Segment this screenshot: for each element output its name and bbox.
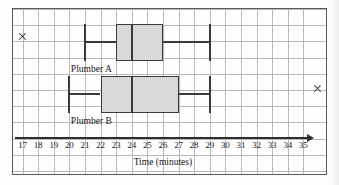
x-axis-tick-31: 31	[237, 140, 246, 150]
whisker-lower-A	[85, 41, 116, 43]
median-line-B	[131, 76, 133, 113]
graph-paper-frame: Plumber A Plumber B 17181920212223242526…	[12, 8, 327, 175]
x-axis-tick-30: 30	[221, 140, 230, 150]
x-mark-left-icon	[18, 32, 27, 41]
x-axis-tick-33: 33	[268, 140, 277, 150]
quartile-box-B	[101, 76, 179, 113]
x-axis-tick-18: 18	[34, 140, 43, 150]
x-axis-tick-26: 26	[159, 140, 168, 150]
whisker-cap-max-A	[209, 24, 211, 61]
x-axis-tick-20: 20	[65, 140, 74, 150]
whisker-upper-B	[179, 93, 210, 95]
gridline-h	[13, 58, 326, 59]
whisker-upper-A	[163, 41, 210, 43]
quartile-box-A	[116, 24, 163, 61]
axis-arrow-right-icon	[307, 134, 314, 142]
x-axis-tick-29: 29	[205, 140, 214, 150]
x-axis-tick-19: 19	[49, 140, 58, 150]
gridline-h	[13, 171, 326, 172]
series-label-plumber-b: Plumber B	[71, 116, 112, 126]
x-axis-tick-24: 24	[127, 140, 136, 150]
x-axis-tick-27: 27	[174, 140, 183, 150]
gridline-h	[13, 122, 326, 123]
x-axis-tick-22: 22	[96, 140, 105, 150]
x-axis-tick-32: 32	[252, 140, 261, 150]
gridline-h	[13, 155, 326, 156]
whisker-lower-B	[69, 93, 100, 95]
gridline-h	[13, 9, 326, 10]
x-mark-right-icon	[313, 84, 322, 93]
series-label-plumber-a: Plumber A	[71, 64, 112, 74]
x-axis-tick-34: 34	[283, 140, 292, 150]
x-axis-tick-17: 17	[18, 140, 27, 150]
x-axis-tick-23: 23	[112, 140, 121, 150]
median-line-A	[131, 24, 133, 61]
gridline-h	[13, 25, 326, 26]
whisker-cap-min-A	[84, 24, 86, 61]
x-axis-tick-28: 28	[190, 140, 199, 150]
x-axis-title: Time (minutes)	[134, 157, 193, 167]
page-edge-shading	[330, 0, 339, 185]
x-axis-tick-25: 25	[143, 140, 152, 150]
whisker-cap-min-B	[68, 76, 70, 113]
whisker-cap-max-B	[209, 76, 211, 113]
figure-canvas: Plumber A Plumber B 17181920212223242526…	[0, 0, 339, 185]
x-axis-tick-21: 21	[81, 140, 90, 150]
x-axis-line	[15, 137, 309, 139]
gridline-h	[13, 139, 326, 140]
x-axis-tick-35: 35	[299, 140, 308, 150]
